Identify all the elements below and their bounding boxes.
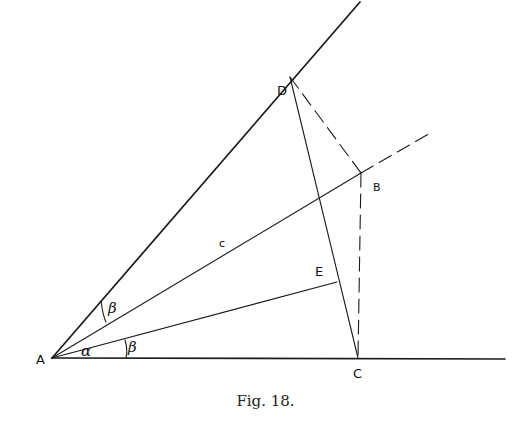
label-a: A: [36, 352, 45, 367]
label-alpha: α: [81, 342, 91, 360]
label-beta-lower: β: [127, 338, 137, 356]
segment-db: [290, 77, 361, 173]
segment-bc: [358, 173, 361, 358]
label-d: D: [277, 83, 287, 98]
ray-ad: [52, 2, 360, 358]
segment-ab-extension: [361, 132, 432, 173]
angle-arc-beta-lower: [125, 340, 127, 358]
label-c: C: [353, 366, 362, 381]
label-b: B: [373, 181, 381, 194]
segment-ae: [52, 282, 337, 358]
label-segment-c: c: [219, 237, 225, 250]
label-e: E: [315, 264, 323, 279]
ray-ac: [52, 358, 505, 359]
geometry-figure: A C D B E c α β β: [0, 0, 531, 426]
segment-dc: [290, 77, 358, 358]
figure-caption: Fig. 18.: [0, 392, 531, 410]
angle-arc-beta-upper: [101, 301, 106, 322]
label-beta-upper: β: [107, 299, 117, 317]
